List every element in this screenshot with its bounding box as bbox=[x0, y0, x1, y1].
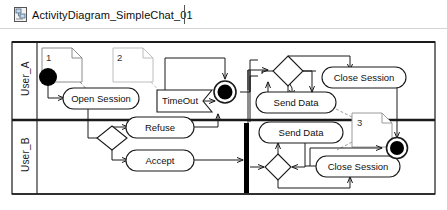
note-3[interactable]: 3 bbox=[352, 113, 392, 147]
action-close-session-user-a-label: Close Session bbox=[334, 72, 395, 83]
action-refuse-label: Refuse bbox=[145, 122, 175, 133]
note-2-label: 2 bbox=[117, 52, 122, 63]
tab-bar-underline bbox=[0, 28, 447, 29]
activity-final-node-user-b[interactable] bbox=[387, 138, 408, 159]
activity-diagram-svg: User_A User_B bbox=[0, 30, 447, 210]
action-open-session-user-a[interactable]: Open Session bbox=[63, 88, 139, 109]
tab-label: ActivityDiagram_SimpleChat_01 bbox=[32, 9, 193, 21]
action-accept-user-b[interactable]: Accept bbox=[126, 150, 194, 171]
action-send-data-user-b-label: Send Data bbox=[279, 127, 325, 138]
action-close-session-user-a[interactable]: Close Session bbox=[322, 67, 406, 88]
action-refuse-user-b[interactable]: Refuse bbox=[126, 117, 194, 138]
signal-timeout-label: TimeOut bbox=[162, 95, 198, 106]
action-close-session-user-b-label: Close Session bbox=[328, 161, 389, 172]
diagram-canvas: User_A User_B bbox=[0, 30, 447, 210]
action-send-data-user-a[interactable]: Send Data bbox=[256, 92, 336, 113]
action-send-data-user-a-label: Send Data bbox=[274, 97, 320, 108]
initial-node-user-a[interactable] bbox=[39, 68, 57, 86]
note-1-label: 1 bbox=[46, 52, 51, 63]
lane-header-user-b: User_B bbox=[20, 137, 31, 172]
activity-final-node-user-a[interactable] bbox=[214, 81, 236, 103]
note-3-label: 3 bbox=[357, 117, 362, 128]
action-accept-label: Accept bbox=[145, 155, 174, 166]
tab-bar: ActivityDiagram_SimpleChat_01 bbox=[0, 0, 447, 30]
tab-caret bbox=[184, 5, 185, 24]
screenshot-root: ActivityDiagram_SimpleChat_01 bbox=[0, 0, 447, 210]
action-close-session-user-b[interactable]: Close Session bbox=[316, 156, 400, 177]
synchronization-bar-user-b[interactable] bbox=[244, 123, 249, 193]
note-2[interactable]: 2 bbox=[113, 48, 153, 82]
tab-activitydiagram-simplechat-01[interactable]: ActivityDiagram_SimpleChat_01 bbox=[10, 4, 199, 25]
lane-label-user-a: User_A bbox=[20, 61, 31, 96]
lane-label-user-b: User_B bbox=[20, 137, 31, 172]
lane-header-user-a: User_A bbox=[20, 61, 31, 96]
action-send-data-user-b[interactable]: Send Data bbox=[259, 122, 343, 143]
action-open-session-label: Open Session bbox=[71, 93, 131, 104]
diagram-file-icon bbox=[14, 7, 27, 22]
